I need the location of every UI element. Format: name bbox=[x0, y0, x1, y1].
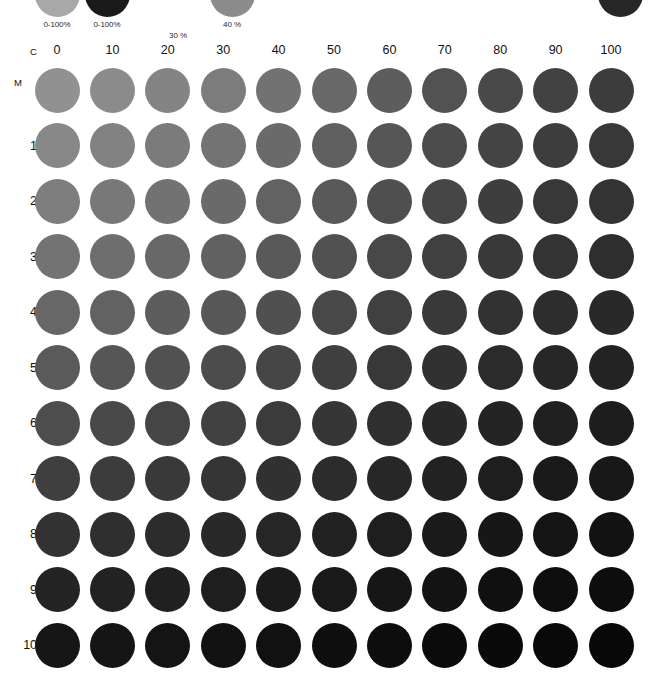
swatch-c60-m10 bbox=[367, 123, 412, 168]
swatch-c10-m30 bbox=[90, 234, 135, 279]
swatch-c30-m10 bbox=[201, 123, 246, 168]
swatch-c40-m100 bbox=[256, 623, 301, 668]
swatch-c0-m20 bbox=[35, 179, 80, 224]
swatch-c50-m50 bbox=[312, 345, 357, 390]
swatch-c100-m90 bbox=[589, 567, 634, 612]
legend-label: 30 % bbox=[148, 31, 208, 40]
swatch-c0-m100 bbox=[35, 623, 80, 668]
legend-label: 0-100% bbox=[77, 20, 137, 29]
swatch-c100-m100 bbox=[589, 623, 634, 668]
swatch-c0-m60 bbox=[35, 401, 80, 446]
swatch-c10-m40 bbox=[90, 290, 135, 335]
swatch-c90-m0 bbox=[533, 68, 578, 113]
swatch-c70-m100 bbox=[422, 623, 467, 668]
swatch-c40-m90 bbox=[256, 567, 301, 612]
swatch-c0-m40 bbox=[35, 290, 80, 335]
swatch-c60-m20 bbox=[367, 179, 412, 224]
swatch-c50-m70 bbox=[312, 456, 357, 501]
swatch-c30-m50 bbox=[201, 345, 246, 390]
swatch-c0-m80 bbox=[35, 512, 80, 557]
swatch-c50-m20 bbox=[312, 179, 357, 224]
swatch-c30-m80 bbox=[201, 512, 246, 557]
swatch-c40-m0 bbox=[256, 68, 301, 113]
swatch-c40-m40 bbox=[256, 290, 301, 335]
column-header-20: 20 bbox=[141, 43, 195, 57]
swatch-c70-m60 bbox=[422, 401, 467, 446]
swatch-c30-m40 bbox=[201, 290, 246, 335]
swatch-c0-m70 bbox=[35, 456, 80, 501]
swatch-c90-m20 bbox=[533, 179, 578, 224]
swatch-c20-m50 bbox=[145, 345, 190, 390]
swatch-c30-m100 bbox=[201, 623, 246, 668]
swatch-c10-m10 bbox=[90, 123, 135, 168]
swatch-c50-m80 bbox=[312, 512, 357, 557]
legend-label: 40 % bbox=[202, 20, 262, 29]
swatch-c20-m40 bbox=[145, 290, 190, 335]
swatch-c50-m90 bbox=[312, 567, 357, 612]
swatch-c50-m30 bbox=[312, 234, 357, 279]
swatch-c30-m90 bbox=[201, 567, 246, 612]
column-header-90: 90 bbox=[529, 43, 583, 57]
swatch-c70-m10 bbox=[422, 123, 467, 168]
swatch-c60-m50 bbox=[367, 345, 412, 390]
swatch-c60-m90 bbox=[367, 567, 412, 612]
swatch-c40-m70 bbox=[256, 456, 301, 501]
swatch-c40-m60 bbox=[256, 401, 301, 446]
swatch-c0-m50 bbox=[35, 345, 80, 390]
swatch-c20-m80 bbox=[145, 512, 190, 557]
swatch-c50-m0 bbox=[312, 68, 357, 113]
legend-swatch-circle bbox=[85, 0, 130, 17]
swatch-c30-m60 bbox=[201, 401, 246, 446]
swatch-c100-m50 bbox=[589, 345, 634, 390]
column-header-100: 100 bbox=[584, 43, 638, 57]
swatch-c0-m0 bbox=[35, 68, 80, 113]
swatch-c80-m20 bbox=[478, 179, 523, 224]
swatch-c10-m70 bbox=[90, 456, 135, 501]
column-header-0: 0 bbox=[30, 43, 84, 57]
swatch-c60-m0 bbox=[367, 68, 412, 113]
swatch-c90-m30 bbox=[533, 234, 578, 279]
column-header-60: 60 bbox=[362, 43, 416, 57]
swatch-c90-m80 bbox=[533, 512, 578, 557]
swatch-c80-m70 bbox=[478, 456, 523, 501]
swatch-c20-m60 bbox=[145, 401, 190, 446]
column-header-10: 10 bbox=[85, 43, 139, 57]
swatch-c40-m80 bbox=[256, 512, 301, 557]
swatch-c80-m60 bbox=[478, 401, 523, 446]
swatch-c90-m100 bbox=[533, 623, 578, 668]
swatch-c70-m30 bbox=[422, 234, 467, 279]
swatch-c70-m80 bbox=[422, 512, 467, 557]
legend-item: 40 % bbox=[202, 0, 262, 29]
cmyk-color-chart-page: 0-100%0-100%30 %40 % C 01020304050607080… bbox=[0, 0, 664, 685]
legend-item: 30 % bbox=[148, 0, 208, 40]
swatch-c100-m10 bbox=[589, 123, 634, 168]
swatch-c30-m0 bbox=[201, 68, 246, 113]
column-header-30: 30 bbox=[196, 43, 250, 57]
legend-item bbox=[590, 0, 650, 17]
legend-swatch-circle bbox=[598, 0, 643, 17]
column-header-50: 50 bbox=[307, 43, 361, 57]
swatch-c60-m30 bbox=[367, 234, 412, 279]
swatch-c50-m100 bbox=[312, 623, 357, 668]
swatch-c60-m80 bbox=[367, 512, 412, 557]
swatch-c40-m50 bbox=[256, 345, 301, 390]
swatch-c0-m10 bbox=[35, 123, 80, 168]
swatch-c20-m0 bbox=[145, 68, 190, 113]
swatch-c90-m70 bbox=[533, 456, 578, 501]
swatch-c80-m80 bbox=[478, 512, 523, 557]
swatch-c60-m70 bbox=[367, 456, 412, 501]
column-header-40: 40 bbox=[252, 43, 306, 57]
swatch-c10-m80 bbox=[90, 512, 135, 557]
legend-strip: 0-100%0-100%30 %40 % bbox=[0, 0, 664, 40]
swatch-c80-m100 bbox=[478, 623, 523, 668]
swatch-c10-m100 bbox=[90, 623, 135, 668]
swatch-c10-m60 bbox=[90, 401, 135, 446]
swatch-c10-m90 bbox=[90, 567, 135, 612]
swatch-c80-m50 bbox=[478, 345, 523, 390]
swatch-c90-m60 bbox=[533, 401, 578, 446]
legend-item: 0-100% bbox=[77, 0, 137, 29]
swatch-c100-m40 bbox=[589, 290, 634, 335]
swatch-c0-m30 bbox=[35, 234, 80, 279]
legend-swatch-circle bbox=[210, 0, 255, 17]
swatch-c10-m50 bbox=[90, 345, 135, 390]
